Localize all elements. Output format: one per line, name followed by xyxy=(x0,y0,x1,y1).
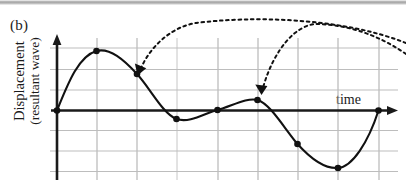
data-point xyxy=(335,165,342,172)
data-point xyxy=(173,116,180,123)
y-axis xyxy=(53,34,62,180)
data-point xyxy=(54,107,61,114)
data-point xyxy=(375,107,382,114)
figure-panel-b: (b) Displacement (resultant wave) time xyxy=(0,0,406,188)
data-point xyxy=(254,97,261,104)
data-point xyxy=(93,48,100,55)
data-point xyxy=(294,141,301,148)
data-point xyxy=(214,107,221,114)
plot-svg xyxy=(0,0,406,188)
